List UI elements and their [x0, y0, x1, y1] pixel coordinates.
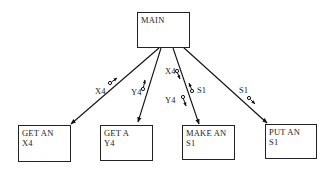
module-label: PUT AN	[269, 127, 300, 137]
edge-main-get-x4	[71, 48, 159, 124]
module-label-line2: X4	[22, 138, 54, 148]
module-label: MAIN	[141, 15, 164, 25]
data-couple-icon	[141, 80, 145, 91]
module-main: MAIN	[137, 12, 190, 48]
couple-label-y4: Y4	[131, 88, 141, 97]
module-label: GET A	[104, 128, 129, 138]
couple-label-y4: Y4	[165, 96, 175, 105]
edge-main-get-y4	[138, 48, 161, 122]
data-couple-icon	[181, 95, 186, 106]
couple-label-x4: X4	[165, 67, 175, 76]
couple-label-s1: S1	[239, 86, 248, 95]
module-label-line2: Y4	[104, 138, 129, 148]
module-get-a-y4: GET A Y4	[100, 125, 153, 161]
module-make-an-s1: MAKE AN S1	[182, 125, 235, 160]
couple-label-s1: S1	[197, 86, 206, 95]
couple-label-x4: X4	[95, 87, 105, 96]
module-label-line2: S1	[269, 137, 300, 147]
edge-main-put-s1	[183, 47, 267, 123]
module-label: MAKE AN	[186, 128, 226, 138]
module-label-line2: S1	[186, 138, 226, 148]
module-get-an-x4: GET AN X4	[18, 125, 71, 162]
data-couple-icon	[247, 96, 255, 104]
data-couple-icon	[108, 78, 117, 85]
module-label: GET AN	[22, 128, 54, 138]
data-couple-icon	[175, 69, 180, 79]
data-couple-icon	[189, 83, 194, 93]
module-put-an-s1: PUT AN S1	[265, 124, 317, 159]
edge-main-make-s1	[173, 48, 199, 124]
